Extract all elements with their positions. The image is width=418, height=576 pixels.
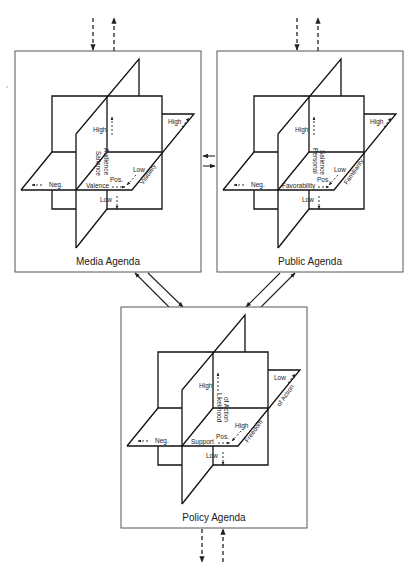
scan-speck <box>6 86 7 87</box>
policy-agenda-title: Policy Agenda <box>182 512 246 523</box>
policy-agenda-box <box>121 307 307 528</box>
media-agenda-title: Media Agenda <box>76 256 140 267</box>
media-horizontal-neg-label: Neg. <box>49 181 63 189</box>
policy-vertical-high-label: High <box>199 382 213 390</box>
media-vertical-axis-label-1: Audience <box>103 148 110 175</box>
public-horizontal-pos-label: Pos. <box>317 176 330 183</box>
policy-vertical-axis-label-2: of Action <box>223 397 230 422</box>
policy-agenda-panel: High Likelihood of Action Low Neg. Suppo… <box>121 307 307 528</box>
media-public-arrows <box>203 156 215 166</box>
public-external-arrows <box>297 18 318 51</box>
media-agenda-panel: High Audience Salience Low Neg. Valence … <box>15 51 201 272</box>
policy-vertical-axis-label-1: Likelihood <box>216 393 223 423</box>
media-vertical-low-label: Low <box>100 196 112 203</box>
public-to-policy-arrow <box>246 273 280 307</box>
public-vertical-axis-label-2: Salience <box>319 150 326 175</box>
policy-horizontal-neg-label: Neg. <box>155 437 169 445</box>
policy-horizontal-pos-label: Pos. <box>216 433 229 440</box>
public-agenda-panel: High Personal Salience Low Neg. Favorabi… <box>217 51 403 272</box>
public-policy-arrows <box>246 273 295 307</box>
policy-vertical-low-label: Low <box>206 452 218 459</box>
media-to-policy-arrow <box>148 273 183 307</box>
public-agenda-box <box>217 51 403 272</box>
media-horizontal-pos-label: Pos. <box>110 176 123 183</box>
policy-horizontal-axis-label: Support <box>191 438 214 446</box>
media-vertical-axis-label-2: Salience <box>95 151 102 176</box>
media-depth-high-label: High <box>168 118 182 126</box>
policy-to-public-arrow <box>261 273 295 307</box>
policy-to-media-arrow <box>135 273 169 307</box>
media-depth-low-label: Low <box>133 166 145 173</box>
agenda-setting-diagram: High Audience Salience Low Neg. Valence … <box>0 0 418 576</box>
policy-external-arrows <box>202 529 223 562</box>
media-external-arrows <box>93 18 114 51</box>
media-vertical-high-label: High <box>93 126 107 134</box>
public-depth-low-label: Low <box>334 166 346 173</box>
public-vertical-low-label: Low <box>302 196 314 203</box>
public-depth-high-label: High <box>370 118 384 126</box>
policy-depth-low-label: Low <box>274 374 286 381</box>
public-vertical-high-label: High <box>295 126 309 134</box>
media-horizontal-axis-label: Valence <box>86 182 109 189</box>
media-policy-arrows <box>135 273 183 307</box>
public-vertical-axis-label-1: Personal <box>312 148 319 174</box>
public-horizontal-neg-label: Neg. <box>251 181 265 189</box>
policy-depth-high-label: High <box>235 422 249 430</box>
public-horizontal-axis-label: Favorability <box>282 182 316 190</box>
public-agenda-title: Public Agenda <box>278 256 342 267</box>
